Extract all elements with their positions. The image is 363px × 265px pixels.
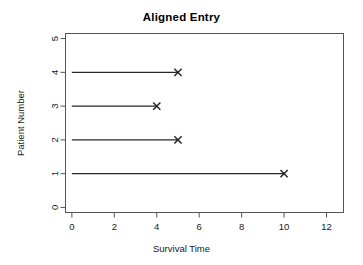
y-axis-ticks: 012345 — [49, 36, 66, 210]
x-tick-label: 6 — [197, 221, 202, 232]
y-tick-label: 1 — [49, 171, 60, 176]
x-tick-label: 4 — [154, 221, 159, 232]
x-axis-ticks: 024681012 — [69, 213, 332, 232]
plot-canvas: 012345 024681012 — [0, 0, 363, 265]
survival-plot-figure: Aligned Entry Patient Number Survival Ti… — [0, 0, 363, 265]
y-tick-label: 4 — [49, 70, 60, 75]
plot-frame — [66, 34, 344, 213]
patient-survival-line — [72, 136, 182, 143]
y-tick-label: 3 — [49, 103, 60, 108]
x-tick-label: 0 — [69, 221, 74, 232]
x-tick-label: 12 — [321, 221, 332, 232]
x-tick-label: 8 — [239, 221, 244, 232]
y-tick-label: 5 — [49, 36, 60, 41]
patient-survival-line — [72, 103, 160, 110]
x-tick-label: 2 — [112, 221, 117, 232]
y-tick-label: 0 — [49, 205, 60, 210]
x-tick-label: 10 — [279, 221, 290, 232]
data-series — [72, 69, 288, 178]
patient-survival-line — [72, 69, 182, 76]
y-tick-label: 2 — [49, 137, 60, 142]
patient-survival-line — [72, 170, 288, 177]
plot-border — [66, 34, 344, 213]
